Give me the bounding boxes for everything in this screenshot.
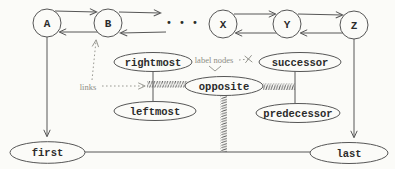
pointer-label-successor: successor: [272, 57, 329, 69]
pointer-label-leftmost: leftmost: [130, 106, 180, 118]
ellipsis-dots: • • •: [166, 17, 200, 28]
node-label-b: B: [105, 18, 112, 30]
label-nodes-text: label nodes: [195, 55, 233, 65]
node-x: X: [209, 10, 237, 38]
node-label-y: Y: [284, 19, 291, 31]
node-label-z: Z: [351, 20, 358, 32]
annotation-label-nodes: label nodes: [195, 55, 249, 71]
links-text: links: [80, 82, 97, 92]
coil-link-opposite-bottom: [221, 96, 228, 153]
pointer-label-rightmost: rightmost: [125, 57, 182, 69]
node-b: B: [94, 9, 122, 37]
pointer-predecessor: predecessor: [256, 104, 340, 123]
pointer-rightmost: rightmost: [114, 53, 192, 72]
down-chevron-arrow-to-opposite: [209, 66, 221, 71]
linked-list-diagram: A B • • • X Y Z rightmost successor oppo…: [0, 0, 395, 169]
pointer-successor: successor: [259, 53, 341, 72]
coil-link-rightmost-opposite: [147, 81, 188, 88]
diagram-canvas: A B • • • X Y Z rightmost successor oppo…: [0, 0, 395, 169]
coil-link-opposite-successor: [263, 84, 295, 91]
pointer-opposite: opposite: [185, 77, 263, 96]
pointer-first: first: [10, 142, 85, 164]
node-a: A: [33, 9, 61, 37]
node-y: Y: [273, 10, 301, 38]
link-arrow-y-to-z: [298, 14, 342, 15]
node-z: Z: [340, 11, 368, 39]
link-arrow-b-to-ellipsis: [119, 12, 160, 13]
link-arrow-ellipsis-to-b: [121, 32, 166, 33]
pointer-label-predecessor: predecessor: [263, 108, 332, 120]
node-label-x: X: [220, 19, 227, 31]
pointer-label-opposite: opposite: [199, 81, 249, 93]
pointer-leftmost: leftmost: [114, 102, 196, 121]
links-arrow-to-list: [92, 41, 96, 80]
link-arrow-a-to-b: [55, 11, 96, 12]
pointer-label-first: first: [32, 147, 64, 159]
label-nodes-arrow-to-successor: [239, 59, 249, 60]
pointer-last: last: [310, 143, 388, 164]
node-label-a: A: [44, 18, 51, 30]
pointer-label-last: last: [336, 148, 361, 160]
